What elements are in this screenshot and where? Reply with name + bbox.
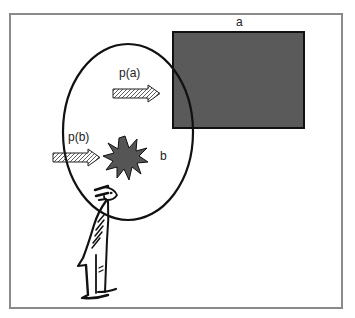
- arrow-p-a-label: p(a): [119, 67, 140, 79]
- starburst-b-icon: [103, 136, 148, 180]
- arrow-p-b-label: p(b): [68, 131, 89, 143]
- arrow-p-a-icon: [113, 85, 160, 102]
- starburst-b-label: b: [160, 150, 167, 162]
- arrow-p-b-icon: [53, 149, 100, 166]
- diagram-canvas: [0, 0, 355, 318]
- rectangle-a-label: a: [236, 16, 243, 28]
- person-figure-icon: [78, 186, 117, 298]
